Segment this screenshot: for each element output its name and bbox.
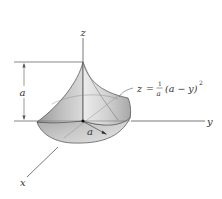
z-axis-label: z: [80, 27, 87, 38]
arrowhead-up-icon: [22, 63, 25, 68]
surface-equation: z = 1 a (a − y) 2: [136, 79, 203, 98]
height-label: a: [20, 87, 26, 98]
y-axis-label: y: [206, 116, 213, 127]
equation-frac-num: 1: [158, 80, 162, 87]
equation-exponent: 2: [199, 79, 203, 86]
equation-equals: =: [146, 83, 154, 94]
x-axis-label: x: [20, 177, 26, 188]
equation-leader-line: [119, 88, 133, 97]
equation-body: (a − y): [165, 83, 198, 94]
arrowhead-down-icon: [22, 116, 25, 121]
surface-figure: z a a y x z = 1 a (a − y) 2: [0, 0, 222, 199]
surface-left-face: [37, 62, 83, 123]
x-axis: [27, 147, 58, 177]
surface-right-face: [83, 62, 131, 125]
equation-frac-den: a: [157, 90, 161, 98]
equation-lhs: z: [136, 83, 143, 94]
radius-label: a: [87, 126, 93, 137]
